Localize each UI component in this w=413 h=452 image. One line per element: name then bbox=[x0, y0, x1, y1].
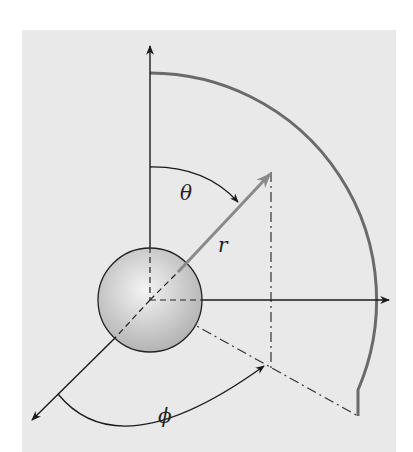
theta-label: θ bbox=[180, 181, 192, 205]
r-label: r bbox=[218, 233, 229, 257]
phi-label: ϕ bbox=[158, 404, 172, 428]
spherical-coordinates-diagram: θ r ϕ bbox=[0, 0, 413, 452]
